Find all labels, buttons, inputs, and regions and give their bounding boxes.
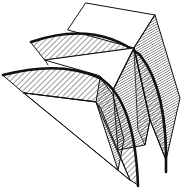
geometric-solid-drawing [0, 0, 184, 189]
